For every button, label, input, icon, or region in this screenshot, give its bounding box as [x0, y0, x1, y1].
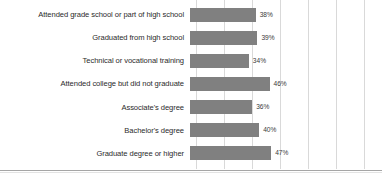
bar-track: 40% [190, 120, 382, 141]
bar [190, 77, 270, 91]
bar-value-label: 40% [263, 126, 276, 134]
bar-value-label: 38% [260, 11, 273, 19]
bar-row: Associate's degree 36% [0, 97, 382, 118]
category-label: Attended college but did not graduate [0, 79, 190, 88]
bar-row: Bachelor's degree 40% [0, 120, 382, 141]
category-label: Associate's degree [0, 103, 190, 112]
bar-row: Technical or vocational training 34% [0, 50, 382, 71]
bar-value-label: 34% [253, 57, 266, 65]
bar-row: Attended college but did not graduate 46… [0, 73, 382, 94]
bar [190, 123, 259, 137]
bottom-divider-shadow [0, 172, 382, 173]
bar-value-label: 47% [275, 149, 288, 157]
bar [190, 100, 252, 114]
category-label: Technical or vocational training [0, 56, 190, 65]
bar-row: Attended grade school or part of high sc… [0, 4, 382, 25]
bar [190, 31, 257, 45]
bar-track: 34% [190, 50, 382, 71]
bottom-divider [0, 170, 382, 171]
category-label: Graduated from high school [0, 33, 190, 42]
bar [190, 8, 256, 22]
bar-track: 39% [190, 27, 382, 48]
category-label: Attended grade school or part of high sc… [0, 10, 190, 19]
bar [190, 146, 271, 160]
bar-track: 46% [190, 73, 382, 94]
bar-value-label: 36% [256, 103, 269, 111]
category-label: Bachelor's degree [0, 126, 190, 135]
bar-row: Graduated from high school 39% [0, 27, 382, 48]
bar-row: Graduate degree or higher 47% [0, 143, 382, 164]
category-label: Graduate degree or higher [0, 149, 190, 158]
bar-track: 36% [190, 97, 382, 118]
bar-rows: Attended grade school or part of high sc… [0, 0, 382, 169]
bar-value-label: 39% [261, 34, 274, 42]
bar-chart: Attended grade school or part of high sc… [0, 0, 382, 178]
bar-track: 38% [190, 4, 382, 25]
bar-track: 47% [190, 143, 382, 164]
bar-value-label: 46% [274, 80, 287, 88]
bar [190, 54, 249, 68]
